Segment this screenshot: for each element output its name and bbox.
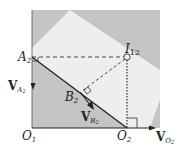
label-a2: A2	[17, 50, 32, 65]
instant-center-diagram: A2 I12 B2 O1 O2 VA2 VB2 VO2	[0, 0, 178, 157]
label-o2: O2	[117, 129, 132, 144]
label-va2: VA2	[7, 79, 26, 94]
label-o1: O1	[22, 129, 36, 144]
label-vo2: VO2	[155, 130, 174, 145]
